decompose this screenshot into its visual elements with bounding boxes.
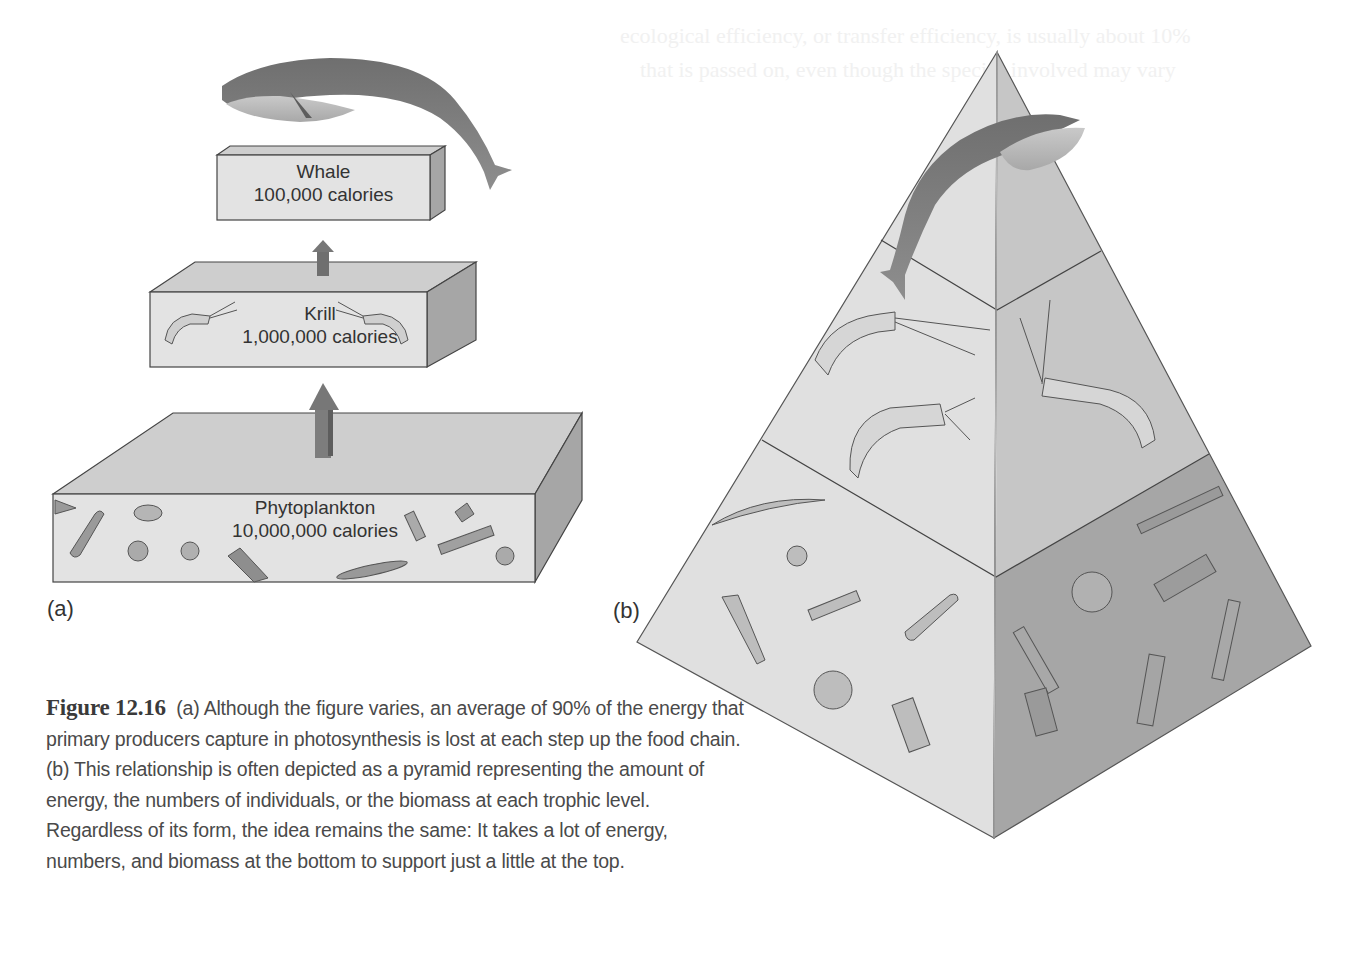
- whale-level-name: Whale: [217, 160, 430, 183]
- panel-a-label: (a): [47, 596, 74, 622]
- figure-number: Figure 12.16: [46, 695, 166, 720]
- whale-level-label: Whale 100,000 calories: [217, 160, 430, 206]
- caption-text: (a) Although the figure varies, an avera…: [46, 697, 744, 872]
- phytoplankton-level-label: Phytoplankton 10,000,000 calories: [200, 496, 430, 542]
- krill-level-name: Krill: [200, 302, 440, 325]
- figure-caption: Figure 12.16 (a) Although the figure var…: [46, 693, 746, 876]
- phytoplankton-level-name: Phytoplankton: [200, 496, 430, 519]
- krill-level-label: Krill 1,000,000 calories: [200, 302, 440, 348]
- krill-level-calories: 1,000,000 calories: [200, 325, 440, 348]
- panel-b-label: (b): [613, 598, 640, 624]
- phytoplankton-level-calories: 10,000,000 calories: [200, 519, 430, 542]
- whale-level-calories: 100,000 calories: [217, 183, 430, 206]
